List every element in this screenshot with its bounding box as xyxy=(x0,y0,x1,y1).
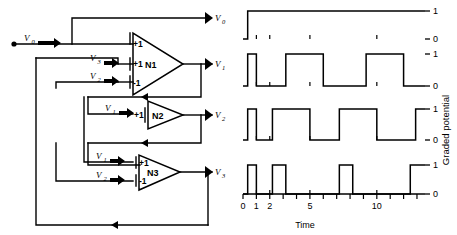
time-axis: 012510 xyxy=(240,194,425,211)
neuron-name-n3: N3 xyxy=(147,168,159,178)
y-tick-label-v2-0: 0 xyxy=(433,135,438,145)
arrowhead-v2-bus xyxy=(141,139,148,147)
arrowhead-v1-bus xyxy=(141,93,148,101)
input-label-v1-n3-sub: 1 xyxy=(104,156,107,163)
x-tick-label-1: 1 xyxy=(254,201,259,211)
waveform-trace-v2 xyxy=(243,109,425,140)
arrow-v0-input xyxy=(38,38,61,48)
source-label-v0: V xyxy=(24,33,31,43)
weight-n1-input-1: +1 xyxy=(133,39,143,49)
neuron-name-n2: N2 xyxy=(152,111,164,121)
weight-n1-input-3: -1 xyxy=(133,78,141,88)
waveform-panels: 01010101 xyxy=(243,6,438,199)
input-label-v2-n3: V xyxy=(96,170,103,180)
arrow-v3-output xyxy=(205,166,213,178)
y-tick-label-v3-1: 1 xyxy=(433,160,438,170)
x-axis-label: Time xyxy=(295,220,315,230)
input-label-v3-n1-sub: 3 xyxy=(97,58,102,65)
weight-n2-input-1: +1 xyxy=(134,110,144,120)
waveform-trace-v0 xyxy=(243,11,425,39)
y-tick-label-v1-1: 1 xyxy=(433,49,438,59)
weight-n3-input-1: +1 xyxy=(139,158,149,168)
arrow-v0-output xyxy=(205,12,213,24)
x-tick-label-2: 2 xyxy=(267,201,272,211)
x-tick-label-10: 10 xyxy=(372,201,382,211)
input-label-v1-n3: V xyxy=(96,151,103,161)
arrow-v3-input xyxy=(104,58,119,68)
y-tick-label-v0-0: 0 xyxy=(433,34,438,44)
output-label-v1-sub: 1 xyxy=(222,64,225,71)
weight-n3-input-2: -1 xyxy=(139,176,147,186)
input-label-v1-n2-sub: 1 xyxy=(113,108,116,115)
input-label-v1-n2: V xyxy=(105,103,112,113)
output-label-v1: V xyxy=(215,59,222,69)
y-tick-label-v1-0: 0 xyxy=(433,81,438,91)
output-arrow-glyphs xyxy=(205,12,213,178)
wire-v3-feedback-bus xyxy=(36,58,208,225)
neural-network-timing-figure: V 0 V 3 V 2 V 1 V 1 V 2 +1 +1 -1 +1 +1 -… xyxy=(0,0,457,235)
arrow-v2-output xyxy=(205,109,213,121)
y-tick-label-v0-1: 1 xyxy=(433,6,438,16)
arrow-v1-input-n2 xyxy=(119,108,134,118)
y-tick-label-v3-0: 0 xyxy=(433,189,438,199)
waveform-trace-v1 xyxy=(243,54,425,86)
x-tick-label-0: 0 xyxy=(240,201,245,211)
output-label-v2-sub: 2 xyxy=(222,115,226,122)
input-arrow-glyphs xyxy=(38,38,134,185)
output-label-v0: V xyxy=(215,13,222,23)
output-label-v3-sub: 3 xyxy=(221,172,226,179)
output-label-v3: V xyxy=(215,167,222,177)
arrow-v2-input-n1 xyxy=(104,76,119,86)
circuit-diagram xyxy=(11,18,212,229)
arrowhead-bottom-bus xyxy=(111,221,118,229)
arrow-v1-output xyxy=(205,58,213,70)
figure-root: V 0 V 3 V 2 V 1 V 1 V 2 +1 +1 -1 +1 +1 -… xyxy=(0,0,457,235)
y-axis-label: Graded potential xyxy=(440,95,451,165)
input-label-v2-n1: V xyxy=(90,71,97,81)
output-label-v2: V xyxy=(215,110,222,120)
output-label-v0-sub: 0 xyxy=(222,18,226,25)
waveform-trace-v3 xyxy=(243,165,425,194)
x-tick-label-5: 5 xyxy=(307,201,312,211)
arrow-v2-input-n3 xyxy=(110,175,125,185)
weight-n1-input-2: +1 xyxy=(133,59,143,69)
y-tick-label-v2-1: 1 xyxy=(433,104,438,114)
neuron-name-n1: N1 xyxy=(145,60,157,70)
